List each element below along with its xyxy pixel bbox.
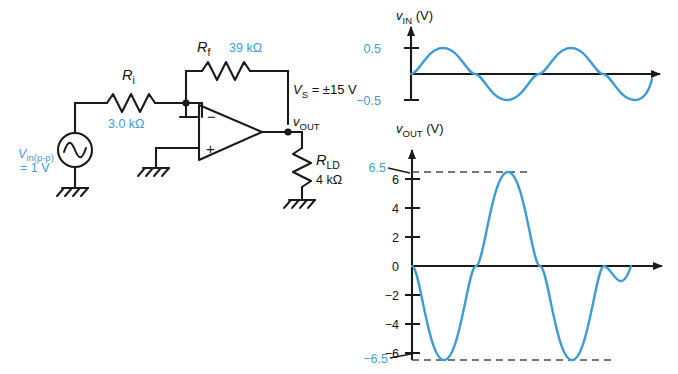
load-ground-icon — [284, 200, 315, 208]
vout-peak-label: 6.5 — [369, 161, 386, 175]
noninverting-ground-icon — [138, 168, 169, 176]
ri-resistor-symbol — [107, 94, 155, 112]
wire-source-to-ri — [75, 103, 107, 122]
wire-rf-to-output — [250, 71, 288, 124]
vout-tick-label-6: 6 — [392, 173, 399, 187]
wire-noninverting-to-ground — [156, 148, 180, 168]
rld-value: 4 kΩ — [316, 173, 342, 187]
ri-designator: Ri — [122, 67, 135, 86]
rf-resistor-symbol — [202, 62, 250, 80]
vin-tick-label-neg: −0.5 — [356, 94, 381, 108]
vout-trough-label: −6.5 — [363, 352, 388, 366]
rf-value: 39 kΩ — [229, 41, 262, 55]
opamp-noninverting-sign: + — [206, 140, 215, 157]
supply-label: VS = ±15 V — [293, 82, 357, 100]
vin-plot: vIN (V) 0.5 −0.5 — [356, 8, 660, 108]
figure-canvas: Vin(p-p) = 1 V Ri 3.0 kΩ Rf 39 kΩ VS = ±… — [0, 0, 678, 374]
wire-node-up-to-rf — [186, 71, 202, 103]
circuit-and-waveforms-figure: Vin(p-p) = 1 V Ri 3.0 kΩ Rf 39 kΩ VS = ±… — [0, 0, 678, 374]
vout-tick-label-neg2: −2 — [385, 289, 399, 303]
vout-tick-label-neg4: −4 — [385, 318, 399, 332]
output-node-label: vOUT — [293, 114, 320, 132]
opamp-inverting-sign: − — [207, 108, 216, 125]
source-ground-icon — [57, 188, 88, 196]
source-label-line2: = 1 V — [20, 161, 50, 175]
vout-tick-label-2: 2 — [392, 231, 399, 245]
rld-resistor-symbol — [293, 148, 311, 187]
vout-plot: vOUT (V) 6 4 2 0 −2 −4 −6 6.5 −6 — [363, 121, 662, 366]
vin-tick-label-pos: 0.5 — [364, 42, 381, 56]
vout-plot-title: vOUT (V) — [396, 121, 444, 139]
rld-designator: RLD — [316, 152, 340, 171]
rf-designator: Rf — [197, 39, 210, 58]
circuit-schematic — [57, 62, 315, 208]
ac-voltage-source-symbol — [58, 133, 92, 167]
vout-tick-label-4: 4 — [392, 202, 399, 216]
vin-plot-title: vIN (V) — [396, 8, 433, 26]
ri-value: 3.0 kΩ — [108, 117, 144, 131]
vout-tick-label-0: 0 — [392, 260, 399, 274]
